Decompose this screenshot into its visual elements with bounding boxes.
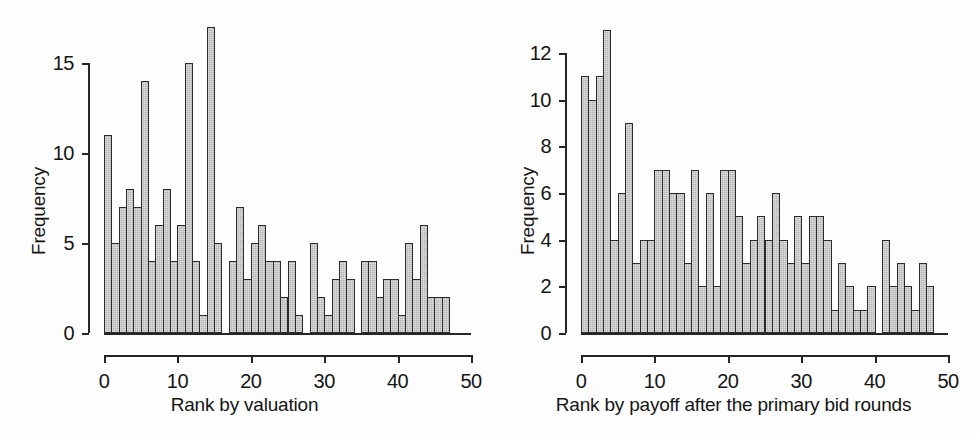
x-tick-left xyxy=(398,355,400,363)
y-tick-label-left: 0 xyxy=(24,323,74,343)
y-tick-label-left: 10 xyxy=(24,143,74,163)
x-tick-left xyxy=(251,355,253,363)
plot-baseline-left xyxy=(104,333,471,335)
x-tick-label-right: 0 xyxy=(556,371,606,391)
x-tick-right xyxy=(654,355,656,363)
y-tick-label-right: 4 xyxy=(501,230,551,250)
x-axis-label-left: Rank by valuation xyxy=(0,394,489,416)
chart-panel-right: Frequency 02468101201020304050 Rank by p… xyxy=(489,0,978,434)
y-tick-right xyxy=(559,333,566,335)
y-tick-right xyxy=(559,193,566,195)
x-tick-left xyxy=(104,355,106,363)
x-tick-right xyxy=(581,355,583,363)
y-tick-right xyxy=(559,240,566,242)
y-tick-label-right: 8 xyxy=(501,136,551,156)
x-tick-right xyxy=(875,355,877,363)
histogram-bar xyxy=(295,315,303,333)
histogram-bar xyxy=(926,286,934,333)
y-tick-left xyxy=(82,63,89,65)
y-tick-label-right: 2 xyxy=(501,276,551,296)
y-tick-label-right: 12 xyxy=(501,43,551,63)
y-tick-left xyxy=(82,333,89,335)
x-tick-label-left: 30 xyxy=(299,371,349,391)
histogram-bar xyxy=(442,297,450,333)
x-axis-line-left xyxy=(104,355,471,357)
y-tick-label-right: 10 xyxy=(501,90,551,110)
x-tick-left xyxy=(324,355,326,363)
y-axis-line-left xyxy=(88,63,90,333)
x-tick-label-left: 10 xyxy=(152,371,202,391)
y-tick-label-left: 5 xyxy=(24,233,74,253)
histogram-bar xyxy=(346,279,354,333)
x-tick-label-right: 40 xyxy=(850,371,900,391)
x-tick-label-right: 20 xyxy=(703,371,753,391)
chart-panel-left: Frequency 05101501020304050 Rank by valu… xyxy=(0,0,489,434)
y-tick-right xyxy=(559,146,566,148)
x-tick-label-left: 20 xyxy=(226,371,276,391)
y-tick-right xyxy=(559,100,566,102)
x-tick-label-left: 0 xyxy=(79,371,129,391)
x-tick-left xyxy=(177,355,179,363)
y-tick-left xyxy=(82,153,89,155)
x-tick-right xyxy=(728,355,730,363)
x-tick-label-right: 50 xyxy=(923,371,973,391)
histogram-bar xyxy=(867,286,875,333)
x-tick-right xyxy=(801,355,803,363)
x-tick-right xyxy=(948,355,950,363)
y-tick-label-right: 0 xyxy=(501,323,551,343)
histogram-bar xyxy=(214,243,222,333)
plot-baseline-right xyxy=(581,333,948,335)
figure-root: Frequency 05101501020304050 Rank by valu… xyxy=(0,0,978,434)
x-tick-left xyxy=(471,355,473,363)
y-tick-label-left: 15 xyxy=(24,53,74,73)
x-axis-line-right xyxy=(581,355,948,357)
x-tick-label-left: 40 xyxy=(373,371,423,391)
y-tick-right xyxy=(559,53,566,55)
x-axis-label-right: Rank by payoff after the primary bid rou… xyxy=(489,394,978,416)
x-tick-label-right: 10 xyxy=(629,371,679,391)
y-tick-right xyxy=(559,286,566,288)
y-tick-label-right: 6 xyxy=(501,183,551,203)
x-tick-label-right: 30 xyxy=(776,371,826,391)
y-tick-left xyxy=(82,243,89,245)
